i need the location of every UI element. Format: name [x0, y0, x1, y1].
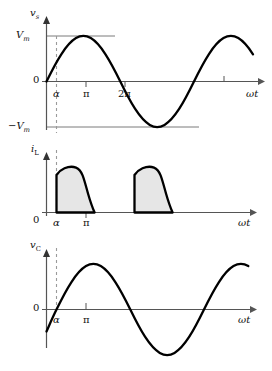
waveform-svg	[0, 0, 272, 371]
xtick-alpha-panel2: α	[53, 218, 60, 228]
x-axis-label-panel3: ωt	[238, 315, 250, 325]
current-pulse-2	[135, 167, 173, 213]
ytick-plus-vm: Vm	[16, 30, 30, 43]
xtick-pi-panel2: π	[83, 218, 90, 228]
ytick-minus-vm: −Vm	[8, 121, 30, 134]
y-axis-label-panel1: vs	[30, 8, 39, 21]
panel-capacitor-voltage	[42, 248, 257, 355]
waveform-figure: vs Vm −Vm 0 α π 2π ωt iL 0 α π ωt vC 0 α…	[0, 0, 272, 371]
xtick-alpha-panel3: α	[53, 315, 60, 325]
y-axis-label-panel2: iL	[31, 144, 39, 157]
xtick-pi-panel1: π	[83, 89, 90, 99]
y-axis-arrow-panel1	[43, 16, 50, 24]
xtick-pi-panel3: π	[83, 315, 90, 325]
panel-load-current	[42, 150, 257, 218]
x-axis-label-panel1: ωt	[246, 89, 258, 99]
y-axis-arrow-panel2	[43, 152, 50, 160]
y-axis-arrow-panel3	[43, 249, 50, 257]
x-axis-arrow-panel2	[250, 209, 257, 216]
xtick-alpha-panel1: α	[53, 89, 60, 99]
x-axis-label-panel2: ωt	[238, 218, 250, 228]
origin-label-panel3: 0	[33, 303, 39, 313]
xtick-2pi-panel1: 2π	[118, 89, 131, 99]
origin-label-panel1: 0	[33, 75, 39, 85]
current-pulse-1	[57, 167, 95, 213]
origin-label-panel2: 0	[33, 215, 39, 225]
x-axis-arrow-panel3	[250, 306, 257, 313]
y-axis-label-panel3: vC	[30, 240, 41, 253]
panel-source-voltage	[42, 16, 265, 133]
x-axis-arrow-panel1	[258, 78, 265, 85]
